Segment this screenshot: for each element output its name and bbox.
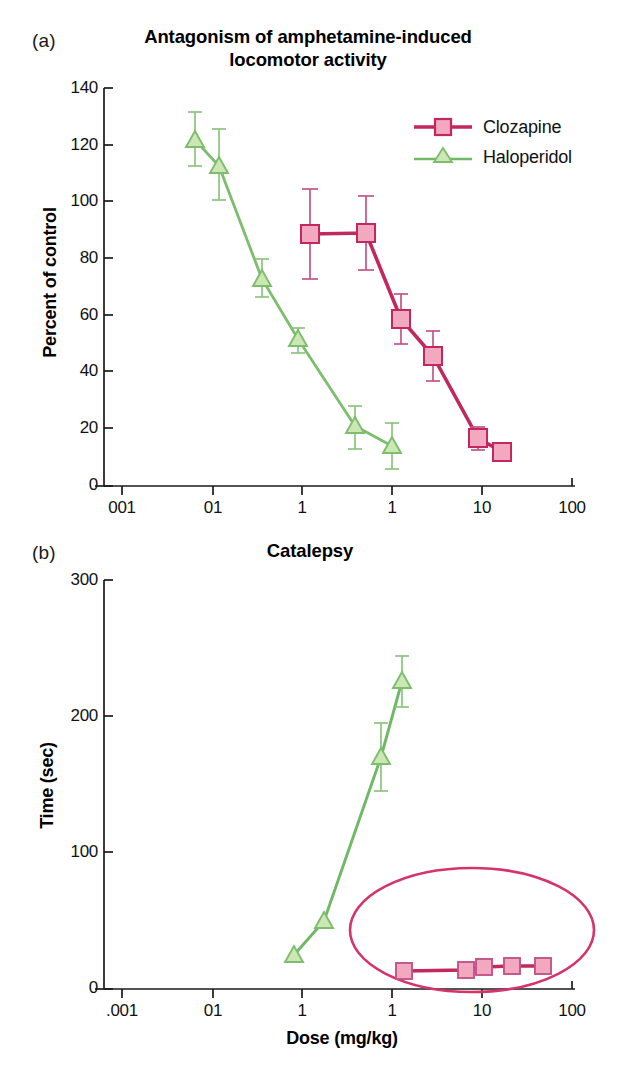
panel-b-plot bbox=[0, 520, 635, 1080]
panel-a: (a) Antagonism of amphetamine-induced lo… bbox=[0, 0, 635, 540]
panel-a-series-haloperidol bbox=[186, 112, 401, 469]
panel-a-series-clozapine bbox=[301, 189, 511, 461]
panel-b-axes bbox=[95, 580, 575, 998]
panel-b-series-haloperidol bbox=[285, 656, 411, 962]
panel-a-axes bbox=[95, 88, 575, 495]
panel-b-series-clozapine bbox=[396, 958, 551, 979]
panel-a-plot bbox=[0, 0, 635, 540]
panel-b: (b) Catalepsy Time (sec) Dose (mg/kg) 30… bbox=[0, 520, 635, 1080]
